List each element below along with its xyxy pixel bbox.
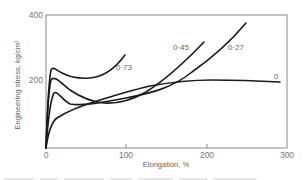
faded-caption-text (4, 170, 300, 178)
x-tick-label-200: 200 (200, 150, 214, 160)
curve-label-0: 0 (274, 72, 279, 81)
curve-label-0-45: 0·45 (173, 43, 190, 52)
curve-0-27 (46, 23, 246, 148)
x-tick-label-300: 300 (280, 150, 294, 160)
curve-0-45 (46, 42, 204, 148)
y-axis-title: Engineering stress, kg/cm² (13, 40, 22, 129)
stress-elongation-chart: 400 200 0 100 200 300 Elongation, % Engi… (0, 0, 304, 180)
x-tick-label-0: 0 (44, 150, 49, 160)
plot-frame (46, 15, 287, 148)
curve-0 (46, 80, 280, 148)
x-axis-title: Elongation, % (143, 160, 190, 169)
curve-0-73 (46, 55, 125, 148)
y-tick-label-400: 400 (29, 10, 43, 20)
curve-label-0-27: 0·27 (228, 43, 245, 52)
x-tick-label-100: 100 (119, 150, 133, 160)
y-tick-label-200: 200 (29, 75, 43, 85)
curve-label-0-73: 0·73 (116, 63, 133, 72)
